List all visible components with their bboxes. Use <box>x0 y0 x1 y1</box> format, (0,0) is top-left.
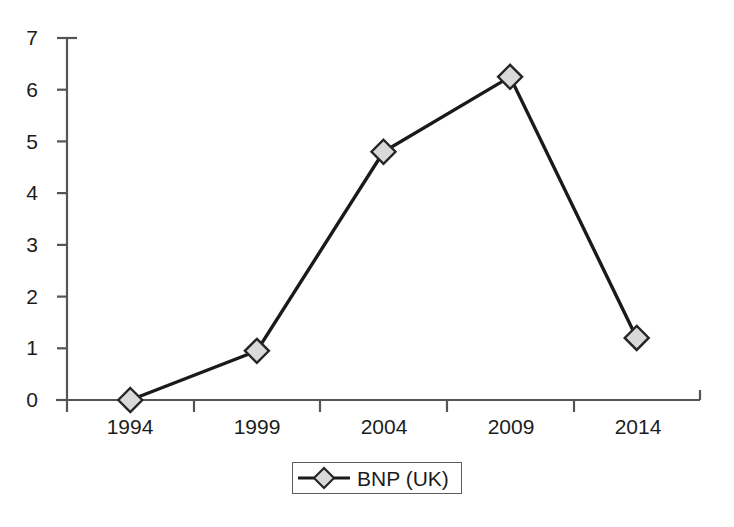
x-tick-label-1994: 1994 <box>75 415 185 439</box>
x-tick-label-1999: 1999 <box>202 415 312 439</box>
y-tick-label-2: 2 <box>8 285 38 309</box>
x-tick-label-2009: 2009 <box>456 415 566 439</box>
chart-plot-area <box>0 0 734 527</box>
x-tick-label-2004: 2004 <box>329 415 439 439</box>
y-axis-ticks <box>57 38 67 400</box>
y-tick-label-3: 3 <box>8 233 38 257</box>
series-markers-bnp-uk <box>118 65 648 412</box>
data-point-marker-1999 <box>245 339 269 363</box>
legend-entry-bnp-uk: BNP (UK) <box>293 463 461 493</box>
data-point-marker-2014 <box>625 326 649 350</box>
chart-legend: BNP (UK) <box>292 462 462 494</box>
y-tick-label-7: 7 <box>8 26 38 50</box>
legend-label-bnp-uk: BNP (UK) <box>357 468 449 489</box>
data-point-marker-1994 <box>118 388 142 412</box>
y-tick-label-1: 1 <box>8 336 38 360</box>
y-tick-label-0: 0 <box>8 388 38 412</box>
y-tick-label-4: 4 <box>8 181 38 205</box>
x-axis-ticks <box>67 400 574 412</box>
data-point-marker-2009 <box>498 65 522 89</box>
diamond-marker-icon <box>293 463 355 493</box>
x-tick-label-2014: 2014 <box>583 415 693 439</box>
series-line-bnp-uk <box>130 77 636 400</box>
y-tick-label-5: 5 <box>8 130 38 154</box>
data-point-marker-2004 <box>372 140 396 164</box>
y-tick-label-6: 6 <box>8 78 38 102</box>
line-chart: 0 1 2 3 4 5 6 7 1994 1999 2004 2009 2014… <box>0 0 734 527</box>
